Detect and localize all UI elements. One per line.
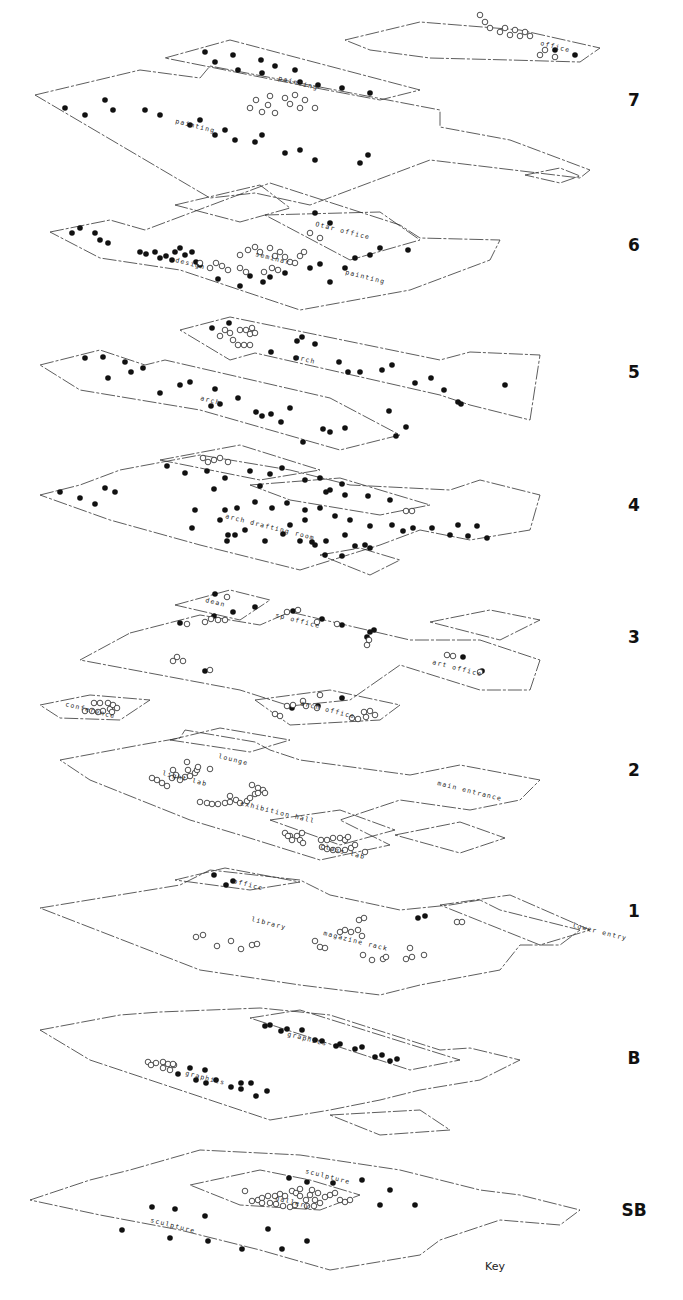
filled-dot-marker bbox=[300, 439, 306, 445]
filled-dot-marker bbox=[232, 137, 238, 143]
room-label: lower entry bbox=[572, 921, 629, 942]
floor-label-b: B bbox=[604, 1048, 664, 1068]
filled-dot-marker bbox=[169, 257, 175, 263]
filled-dot-marker bbox=[359, 1044, 365, 1050]
filled-dot-marker bbox=[304, 1238, 310, 1244]
filled-dot-marker bbox=[332, 513, 338, 519]
filled-dot-marker bbox=[319, 616, 325, 622]
filled-dot-marker bbox=[252, 604, 258, 610]
filled-dot-marker bbox=[458, 401, 464, 407]
filled-dot-marker bbox=[260, 279, 266, 285]
filled-dot-marker bbox=[252, 499, 258, 505]
open-dot-marker bbox=[265, 1193, 271, 1199]
filled-dot-marker bbox=[410, 525, 416, 531]
filled-dot-marker bbox=[394, 1056, 400, 1062]
filled-dot-marker bbox=[379, 1052, 385, 1058]
open-dot-marker bbox=[174, 654, 180, 660]
floor-outline bbox=[345, 22, 600, 62]
open-dot-marker bbox=[487, 25, 493, 31]
filled-dot-marker bbox=[234, 505, 240, 511]
open-dot-marker bbox=[277, 249, 283, 255]
open-dot-marker bbox=[208, 616, 214, 622]
floor-plan-diagram: paintingpaintingofficeOtar officedesigns… bbox=[0, 0, 683, 1300]
filled-dot-marker bbox=[299, 334, 305, 340]
open-dot-marker bbox=[360, 952, 366, 958]
open-dot-marker bbox=[262, 790, 268, 796]
key-label: Key bbox=[485, 1260, 505, 1273]
open-dot-marker bbox=[242, 1188, 248, 1194]
filled-dot-marker bbox=[389, 362, 395, 368]
floor-label-7: 7 bbox=[604, 90, 664, 110]
room-label: arch bbox=[295, 353, 317, 366]
open-dot-marker bbox=[170, 1061, 176, 1067]
filled-dot-marker bbox=[312, 542, 318, 548]
open-dot-marker bbox=[332, 1190, 338, 1196]
filled-dot-marker bbox=[253, 1093, 259, 1099]
open-dot-marker bbox=[205, 459, 211, 465]
filled-dot-marker bbox=[242, 527, 248, 533]
filled-dot-marker bbox=[189, 525, 195, 531]
open-dot-marker bbox=[249, 782, 255, 788]
filled-dot-marker bbox=[357, 160, 363, 166]
filled-dot-marker bbox=[177, 245, 183, 251]
filled-dot-marker bbox=[323, 489, 329, 495]
open-dot-marker bbox=[366, 637, 372, 643]
filled-dot-marker bbox=[362, 542, 368, 548]
filled-dot-marker bbox=[212, 386, 218, 392]
open-dot-marker bbox=[114, 705, 120, 711]
floor-2: loungelight labexhibition hallmain entra… bbox=[60, 728, 540, 861]
filled-dot-marker bbox=[312, 157, 318, 163]
floor-6: Otar officedesignseminarpainting bbox=[50, 183, 500, 310]
open-dot-marker bbox=[207, 766, 213, 772]
filled-dot-marker bbox=[367, 523, 373, 529]
filled-dot-marker bbox=[163, 253, 169, 259]
room-label: library bbox=[251, 915, 288, 931]
filled-dot-marker bbox=[232, 532, 238, 538]
floor-5: archarch bbox=[40, 317, 540, 450]
open-dot-marker bbox=[222, 327, 228, 333]
filled-dot-marker bbox=[342, 532, 348, 538]
filled-dot-marker bbox=[122, 359, 128, 365]
room-label: art office bbox=[432, 658, 484, 678]
open-dot-marker bbox=[269, 265, 275, 271]
open-dot-marker bbox=[267, 93, 273, 99]
open-dot-marker bbox=[267, 245, 273, 251]
filled-dot-marker bbox=[238, 1086, 244, 1092]
open-dot-marker bbox=[97, 700, 103, 706]
open-dot-marker bbox=[185, 767, 191, 773]
open-dot-marker bbox=[372, 712, 378, 718]
filled-dot-marker bbox=[262, 1023, 268, 1029]
open-dot-marker bbox=[275, 267, 281, 273]
open-dot-marker bbox=[330, 835, 336, 841]
open-dot-marker bbox=[209, 801, 215, 807]
filled-dot-marker bbox=[157, 112, 163, 118]
room-label: lounge bbox=[218, 752, 250, 767]
open-dot-marker bbox=[309, 1187, 315, 1193]
open-dot-marker bbox=[348, 929, 354, 935]
filled-dot-marker bbox=[327, 429, 333, 435]
room-label: design bbox=[175, 256, 207, 271]
open-dot-marker bbox=[317, 235, 323, 241]
open-dot-marker bbox=[421, 952, 427, 958]
open-dot-marker bbox=[247, 342, 253, 348]
open-dot-marker bbox=[317, 692, 323, 698]
open-dot-marker bbox=[184, 621, 190, 627]
filled-dot-marker bbox=[222, 475, 228, 481]
filled-dot-marker bbox=[119, 1227, 125, 1233]
open-dot-marker bbox=[225, 459, 231, 465]
filled-dot-marker bbox=[230, 609, 236, 615]
filled-dot-marker bbox=[302, 507, 308, 513]
filled-dot-marker bbox=[128, 369, 134, 375]
open-dot-marker bbox=[215, 801, 221, 807]
open-dot-marker bbox=[214, 943, 220, 949]
filled-dot-marker bbox=[143, 251, 149, 257]
room-label: painting bbox=[175, 117, 217, 135]
filled-dot-marker bbox=[247, 468, 253, 474]
filled-dot-marker bbox=[405, 247, 411, 253]
open-dot-marker bbox=[403, 956, 409, 962]
floor-outline bbox=[395, 822, 505, 853]
filled-dot-marker bbox=[202, 1067, 208, 1073]
floor-outline bbox=[170, 728, 290, 752]
room-label: sculpture bbox=[150, 1216, 197, 1235]
open-dot-marker bbox=[225, 267, 231, 273]
